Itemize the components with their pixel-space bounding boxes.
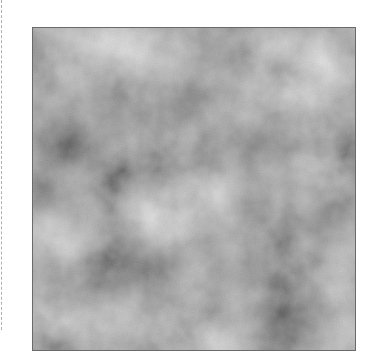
noise-image-canvas bbox=[32, 27, 356, 351]
grain-overlay bbox=[33, 28, 355, 350]
dashed-guide-line bbox=[1, 0, 2, 330]
cloud-noise-texture bbox=[33, 28, 355, 350]
